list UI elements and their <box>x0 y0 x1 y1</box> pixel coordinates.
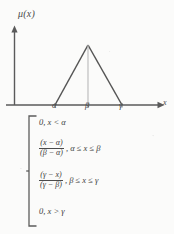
fraction: (γ − x) (γ − β) <box>39 171 63 190</box>
fraction-numerator: (x − α) <box>39 139 63 148</box>
y-axis-arrowhead <box>11 26 17 33</box>
formula-case-row: (x − α) (β − α) , α ≤ x ≤ β <box>39 139 100 158</box>
case-expression: 0, x < α <box>39 117 66 127</box>
left-brace-icon <box>26 115 38 227</box>
fraction-denominator: (γ − β) <box>39 181 63 190</box>
formula-cases: 0, x < α (x − α) (β − α) , α ≤ x ≤ β (γ … <box>39 113 174 231</box>
formula-case-row: 0, x < α <box>39 117 66 127</box>
tick-label-alpha: α <box>52 101 56 110</box>
tick-label-gamma: γ <box>119 101 122 110</box>
fraction: (x − α) (β − α) <box>39 139 64 158</box>
fraction-numerator: (γ − x) <box>39 171 62 180</box>
x-axis-label: x <box>163 99 167 107</box>
case-condition: , β ≤ x ≤ γ <box>65 175 98 185</box>
piecewise-formula: 0, x < α (x − α) (β − α) , α ≤ x ≤ β (γ … <box>26 113 174 231</box>
fraction-denominator: (β − α) <box>39 149 64 158</box>
formula-case-row: 0, x > γ <box>39 206 65 216</box>
figure-page: μ(x) x α β γ 0, x < α (x − α) (β − α) , … <box>0 0 174 234</box>
case-condition: , α ≤ x ≤ β <box>66 143 101 153</box>
tick-label-beta: β <box>85 101 89 110</box>
case-expression: 0, x > γ <box>39 206 65 216</box>
triangular-membership-plot: μ(x) x α β γ <box>0 0 174 116</box>
formula-case-row: (γ − x) (γ − β) , β ≤ x ≤ γ <box>39 171 98 190</box>
y-axis-label: μ(x) <box>18 9 35 19</box>
rising-edge <box>55 45 88 105</box>
falling-edge <box>88 45 122 105</box>
